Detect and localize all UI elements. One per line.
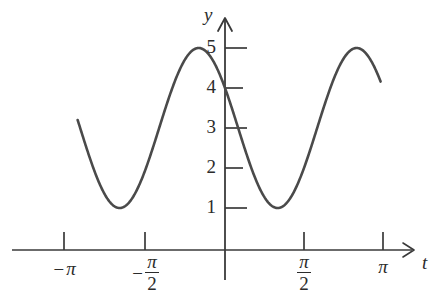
- minus-sign: −: [52, 260, 65, 279]
- fraction-pi-over-2: π 2: [297, 252, 311, 294]
- y-tick-label-5: 5: [196, 36, 216, 58]
- y-axis-label: y: [204, 4, 212, 26]
- minus-sign: −: [131, 264, 144, 283]
- x-tick-label-pi-over-2: π 2: [284, 252, 324, 294]
- fraction-denominator: 2: [297, 274, 311, 293]
- trig-graph-figure: 5 4 3 2 1 −π − π 2 π 2 π y t: [0, 0, 437, 299]
- y-tick-label-2: 2: [196, 156, 216, 178]
- y-tick-label-4: 4: [196, 76, 216, 98]
- x-tick-label-pi: π: [365, 256, 401, 278]
- fraction-numerator: π: [297, 252, 311, 271]
- y-tick-marks: [225, 48, 247, 208]
- fraction-numerator: π: [145, 252, 159, 271]
- x-tick-label-neg-pi-over-2: − π 2: [122, 252, 168, 294]
- fraction-pi-over-2: π 2: [145, 252, 159, 294]
- x-tick-marks: [64, 232, 383, 250]
- y-tick-label-3: 3: [196, 116, 216, 138]
- pi-glyph: π: [378, 256, 388, 277]
- pi-glyph: π: [66, 258, 76, 280]
- y-tick-label-1: 1: [196, 196, 216, 218]
- x-axis-label: t: [422, 252, 427, 274]
- plot-canvas: [0, 0, 437, 299]
- x-tick-label-neg-pi: −π: [42, 256, 86, 280]
- fraction-denominator: 2: [145, 274, 159, 293]
